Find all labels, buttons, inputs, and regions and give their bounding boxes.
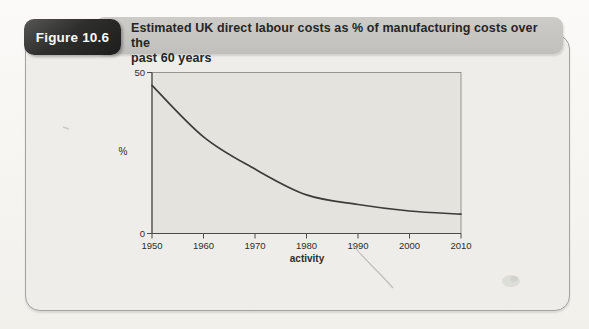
scan-artifact-smudge-core [510,276,518,282]
y-tick-label: 0 [140,228,145,239]
scanned-page-background: 0501950196019701980199020002010%activity… [0,0,589,329]
figure-title: Estimated UK direct labour costs as % of… [131,21,555,66]
y-axis-title: % [119,146,128,157]
x-tick-label: 2010 [450,240,471,251]
figure-number-label: Figure 10.6 [36,30,109,45]
x-tick-label: 1950 [141,240,162,251]
x-tick-label: 1990 [347,240,368,251]
x-tick-label: 1980 [296,240,317,251]
plot-area: 0501950196019701980199020002010%activity [119,67,472,264]
scan-artifact-smudge [502,275,520,287]
x-tick-label: 1960 [193,240,214,251]
figure-title-line2: past 60 years [131,51,555,66]
x-tick-label: 1970 [244,240,265,251]
figure-title-line1: Estimated UK direct labour costs as % of… [131,21,555,51]
scan-artifact-pencil-line [352,244,393,288]
plot-frame [152,73,461,234]
x-axis-title: activity [290,253,325,264]
x-tick-label: 2000 [399,240,420,251]
y-tick-label: 50 [134,67,145,78]
scan-artifact-speck [63,127,69,129]
figure-title-bar: Estimated UK direct labour costs as % of… [95,17,563,54]
figure-number-badge: Figure 10.6 [24,19,121,55]
